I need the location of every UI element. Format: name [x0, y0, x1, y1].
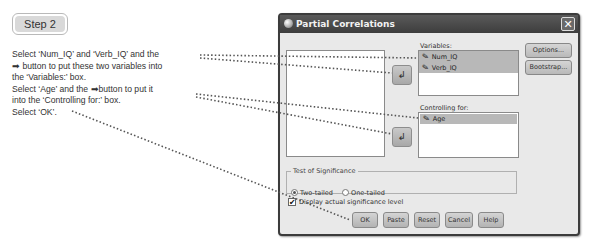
instruction-line-2: ➡ button to put these two variables into — [12, 61, 202, 73]
help-button[interactable]: Help — [478, 212, 504, 228]
close-icon: ✕ — [563, 18, 572, 31]
scale-variable-icon: ✎ — [421, 62, 430, 74]
arrow-button-icon: ➡ — [91, 84, 99, 94]
move-to-controlling-button[interactable]: ↲ — [392, 127, 412, 147]
checkmark-icon: ✔ — [289, 198, 296, 207]
reset-button[interactable]: Reset — [414, 212, 440, 228]
two-tailed-label[interactable]: Two-tailed — [300, 189, 333, 197]
app-icon — [284, 19, 293, 28]
step-badge: Step 2 — [12, 13, 68, 35]
one-tailed-radio[interactable] — [342, 189, 349, 196]
controlling-for-label: Controlling for: — [420, 104, 468, 112]
list-item-verb-iq[interactable]: ✎Verb_IQ — [419, 62, 518, 73]
dialog-title: Partial Correlations — [296, 17, 395, 31]
scale-variable-icon: ✎ — [422, 113, 430, 124]
variables-label: Variables: — [420, 42, 452, 50]
display-significance-checkbox[interactable]: ✔ — [288, 198, 296, 206]
variables-list[interactable]: ✎Num_IQ ✎Verb_IQ — [418, 50, 519, 96]
one-tailed-label[interactable]: One-tailed — [351, 189, 385, 197]
instruction-line-3: the ‘Variables:’ box. — [12, 72, 202, 84]
source-variable-list[interactable] — [286, 50, 385, 157]
two-tailed-radio[interactable] — [291, 189, 298, 196]
options-button[interactable]: Options... — [525, 43, 572, 58]
arrow-icon: ↲ — [398, 69, 406, 80]
instruction-line-1: Select ‘Num_IQ’ and ‘Verb_IQ’ and the — [12, 49, 202, 61]
test-of-significance-group: Test of Significance Two-tailed One-tail… — [286, 171, 517, 194]
display-significance-label[interactable]: Display actual significance level — [299, 198, 403, 207]
paste-button[interactable]: Paste — [383, 212, 409, 228]
list-item-age[interactable]: ✎Age — [420, 114, 517, 124]
arrow-button-icon: ➡ — [12, 61, 20, 71]
instruction-line-4: Select ‘Age’ and the ➡button to put it — [12, 84, 202, 96]
move-to-variables-button[interactable]: ↲ — [392, 65, 412, 85]
instruction-line-5: into the ‘Controlling for:’ box. — [12, 95, 202, 107]
ok-button[interactable]: OK — [352, 212, 378, 228]
close-button[interactable]: ✕ — [561, 17, 575, 31]
instruction-line-6: Select ‘OK’. — [12, 107, 202, 119]
test-of-significance-label: Test of Significance — [291, 167, 358, 175]
partial-correlations-dialog: Partial Correlations ✕ ↲ ↲ Variables: ✎N… — [278, 13, 580, 236]
list-item-num-iq[interactable]: ✎Num_IQ — [419, 51, 518, 62]
instructions: Select ‘Num_IQ’ and ‘Verb_IQ’ and the ➡ … — [12, 49, 202, 118]
controlling-for-list[interactable]: ✎Age — [418, 112, 519, 158]
cancel-button[interactable]: Cancel — [445, 212, 473, 228]
step-badge-label: Step 2 — [15, 16, 65, 32]
arrow-icon: ↲ — [398, 131, 406, 142]
tail-options: Two-tailed One-tailed — [291, 180, 389, 199]
title-bar[interactable]: Partial Correlations ✕ — [280, 15, 578, 33]
bootstrap-button[interactable]: Bootstrap... — [525, 60, 572, 75]
scale-variable-icon: ✎ — [421, 51, 430, 63]
